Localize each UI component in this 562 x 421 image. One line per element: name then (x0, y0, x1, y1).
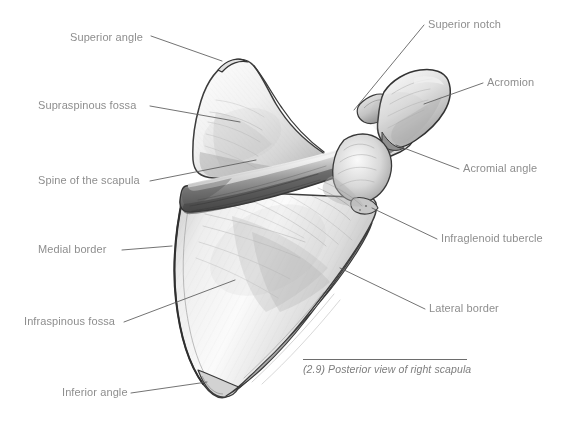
label-medial-border: Medial border (38, 243, 107, 256)
label-infraglenoid-tubercle: Infraglenoid tubercle (441, 232, 543, 245)
label-supraspinous-fossa: Supraspinous fossa (38, 99, 136, 112)
caption-text: (2.9) Posterior view of right scapula (303, 363, 493, 376)
label-infraspinous-fossa: Infraspinous fossa (24, 315, 115, 328)
label-superior-notch: Superior notch (428, 18, 501, 31)
anatomy-figure: Superior angle Supraspinous fossa Spine … (0, 0, 562, 421)
label-lateral-border: Lateral border (429, 302, 499, 315)
label-superior-angle: Superior angle (70, 31, 143, 44)
figure-caption: (2.9) Posterior view of right scapula (303, 359, 493, 376)
label-acromion: Acromion (487, 76, 534, 89)
caption-rule (303, 359, 467, 360)
label-inferior-angle: Inferior angle (62, 386, 128, 399)
label-spine-of-the-scapula: Spine of the scapula (38, 174, 140, 187)
scapula-illustration (0, 0, 562, 421)
label-acromial-angle: Acromial angle (463, 162, 537, 175)
